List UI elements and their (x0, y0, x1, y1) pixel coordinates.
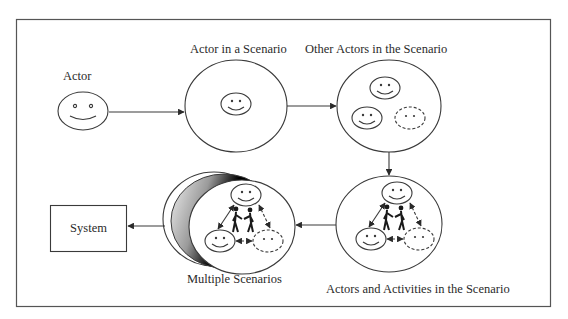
actor-face-icon (221, 93, 251, 115)
other-actors-circle (337, 60, 441, 152)
label-actors-activities: Actors and Activities in the Scenario (326, 282, 510, 296)
label-actor: Actor (63, 69, 92, 83)
actor-face-icon (58, 92, 108, 130)
scenario-diagram: Actor Actor in a Scenario Other Actors i… (0, 0, 568, 319)
label-actor-in-scenario: Actor in a Scenario (190, 42, 287, 56)
dashed-actor-face-icon (395, 107, 425, 129)
actor-face-icon (370, 77, 400, 99)
label-system: System (70, 221, 107, 235)
label-other-actors: Other Actors in the Scenario (305, 42, 447, 56)
actor-face-icon (352, 107, 382, 129)
label-multiple-scenarios: Multiple Scenarios (187, 272, 282, 286)
multiple-scenarios-stack (163, 172, 295, 274)
diagram-frame (17, 20, 551, 307)
